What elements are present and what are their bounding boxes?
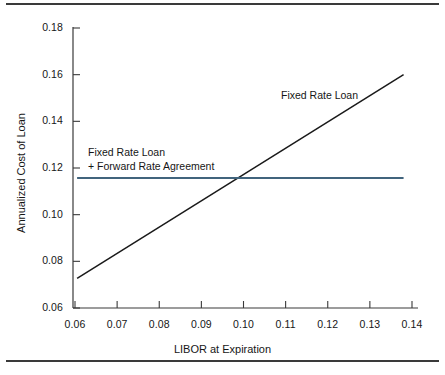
series-line-0 xyxy=(77,75,403,279)
x-tick-label: 0.13 xyxy=(350,318,390,330)
y-tick-label: 0.10 xyxy=(29,208,63,220)
y-tick-label: 0.08 xyxy=(29,254,63,266)
y-tick-label: 0.06 xyxy=(29,301,63,313)
x-tick-label: 0.12 xyxy=(308,318,348,330)
annotation-fixed-rate-loan-fra: Fixed Rate Loan+ Forward Rate Agreement xyxy=(88,146,214,173)
y-tick-label: 0.16 xyxy=(29,68,63,80)
data-series-group xyxy=(77,75,403,279)
annotation-fra-line1: Fixed Rate Loan xyxy=(88,146,165,158)
x-axis-ticks xyxy=(75,301,412,308)
y-axis-title: Annualized Cost of Loan xyxy=(15,83,27,263)
x-tick-label: 0.14 xyxy=(392,318,432,330)
annotation-fixed-rate-loan: Fixed Rate Loan xyxy=(281,89,358,103)
y-tick-label: 0.12 xyxy=(29,161,63,173)
y-tick-label: 0.14 xyxy=(29,114,63,126)
y-axis-ticks xyxy=(73,28,80,308)
figure-container: 0.060.080.100.120.140.160.18 0.060.070.0… xyxy=(0,0,445,375)
x-axis-title: LIBOR at Expiration xyxy=(0,343,445,355)
annotation-fra-line2: + Forward Rate Agreement xyxy=(88,160,214,172)
x-tick-label: 0.11 xyxy=(266,318,306,330)
y-tick-label: 0.18 xyxy=(29,21,63,33)
x-tick-label: 0.08 xyxy=(139,318,179,330)
x-tick-label: 0.06 xyxy=(55,318,95,330)
x-tick-label: 0.09 xyxy=(181,318,221,330)
x-tick-label: 0.10 xyxy=(224,318,264,330)
x-tick-label: 0.07 xyxy=(97,318,137,330)
